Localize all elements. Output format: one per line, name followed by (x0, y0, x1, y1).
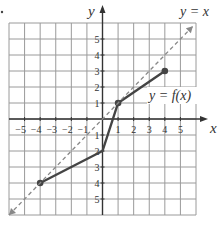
identity-line-label: y = x (178, 4, 210, 19)
y-tick-label: 2 (95, 82, 100, 93)
function-label: y = f(x) (147, 88, 191, 104)
x-axis-arrow-icon (200, 116, 208, 122)
y-tick-label: 1 (95, 130, 100, 141)
y-tick-label: 3 (95, 162, 100, 173)
x-tick-label: −1 (78, 124, 89, 135)
x-tick-label: 2 (131, 124, 136, 135)
x-tick-label: −4 (31, 124, 42, 135)
x-tick-label: −2 (62, 124, 73, 135)
y-tick-label: 5 (95, 194, 100, 205)
stray-mark (1, 11, 3, 13)
x-tick-label: −5 (15, 124, 26, 135)
y-axis-arrow-icon (100, 5, 106, 13)
x-tick-label: 3 (147, 124, 152, 135)
y-axis-label: y (86, 3, 95, 19)
x-axis-label: x (209, 120, 217, 136)
x-tick-label: 5 (178, 124, 183, 135)
x-tick-label: 1 (116, 124, 121, 135)
y-tick-label: 5 (95, 34, 100, 45)
y-tick-label: 1 (95, 98, 100, 109)
y-tick-label: 4 (95, 178, 100, 189)
data-point (162, 68, 169, 75)
f-label-box: y = f(x) (147, 87, 197, 104)
y-tick-label: 3 (95, 66, 100, 77)
x-tick-label: 4 (162, 124, 167, 135)
x-tick-label: −3 (46, 124, 57, 135)
function-graph: −5−4−3−2−1123455432112345 x y y = x y = … (0, 0, 222, 230)
y-tick-label: 4 (95, 50, 100, 61)
